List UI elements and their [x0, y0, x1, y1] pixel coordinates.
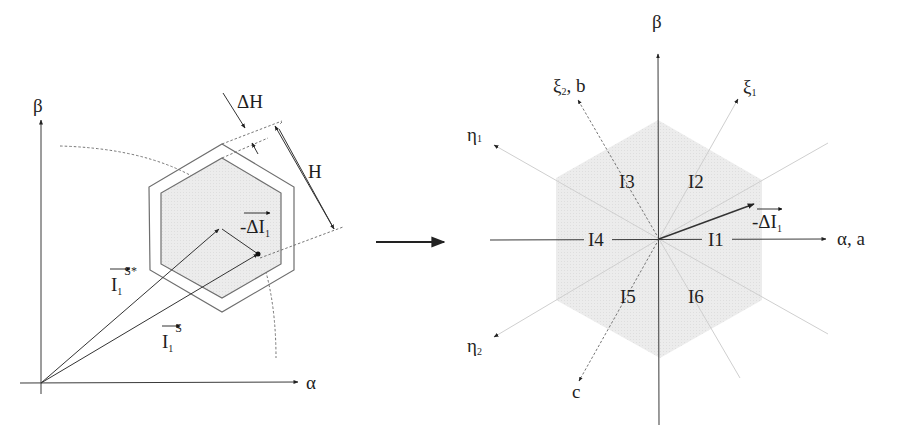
c-label: c [572, 381, 580, 402]
beta-label-right: β [652, 11, 662, 32]
eta2-label: η2 [467, 335, 482, 357]
error-vector-label-right: -ΔI1 [752, 211, 782, 234]
eta1-label: η1 [467, 124, 482, 145]
hysteresis-current-control-diagram: β α ΔH H -ΔI1 I1S* I1S [0, 0, 898, 448]
sector-label-i3: I3 [619, 171, 635, 192]
beta-axis-label: β [33, 95, 43, 116]
delta-h-label: ΔH [237, 91, 263, 112]
delta-h-arrow-bottom [252, 143, 258, 154]
sector-label-i6: I6 [688, 286, 704, 307]
h-label: H [308, 161, 322, 182]
xi2-b-label: ξ2, b [553, 75, 585, 97]
h-dimension-arrow-reverse [275, 126, 334, 229]
band-mark [280, 122, 282, 124]
actual-current-vector [41, 254, 258, 383]
left-diagram: β α ΔH H -ΔI1 I1S* I1S [20, 91, 343, 394]
sector-label-i2: I2 [688, 171, 704, 192]
sector-label-i4: I4 [588, 229, 604, 250]
alpha-a-axis [490, 239, 826, 240]
alpha-a-label: α, a [837, 228, 865, 249]
right-diagram: -ΔI1 β α, a ξ2, b ξ1 η1 η2 c I1 I2 I3 I4… [467, 11, 865, 425]
xi1-label: ξ1 [743, 76, 756, 98]
alpha-axis [20, 382, 298, 383]
current-point [256, 252, 261, 257]
sector-label-i5: I5 [620, 286, 636, 307]
alpha-axis-label: α [306, 372, 316, 393]
reference-current-vector [41, 229, 219, 383]
sector-label-i1: I1 [708, 229, 724, 250]
band-outer-dash [222, 121, 282, 144]
